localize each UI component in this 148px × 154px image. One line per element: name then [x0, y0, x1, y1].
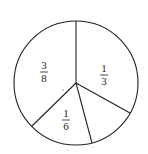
denominator: 8 [41, 72, 47, 84]
speck [67, 149, 68, 150]
sector-label-one-sixth: 1 6 [62, 107, 70, 132]
numerator: 1 [63, 107, 69, 119]
numerator: 3 [41, 59, 47, 71]
radius-bottom [76, 83, 92, 143]
denominator: 3 [101, 75, 107, 87]
numerator: 1 [101, 62, 107, 74]
radius-lower-left [32, 83, 76, 126]
radius-right [76, 83, 130, 113]
pie-diagram: 1 3 3 8 1 6 [0, 0, 148, 154]
sector-label-one-third: 1 3 [100, 62, 108, 87]
sector-label-three-eighths: 3 8 [40, 59, 48, 84]
pie-svg: 1 3 3 8 1 6 [0, 0, 148, 154]
speck [93, 147, 94, 148]
speck [62, 89, 63, 90]
denominator: 6 [63, 120, 69, 132]
